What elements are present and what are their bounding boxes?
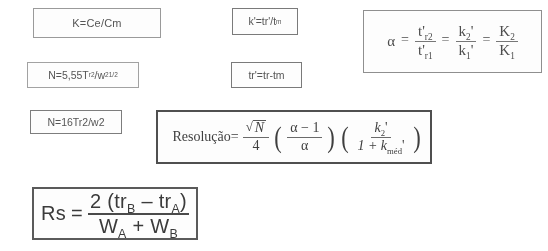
alpha-minus-one: α − 1	[287, 121, 322, 138]
alpha-fraction-distribution: K2 K1	[496, 24, 518, 59]
resolution-k2-prime: '	[385, 120, 388, 135]
open-paren-1: (	[274, 125, 282, 149]
alpha-frac3-den-base: K	[499, 42, 510, 58]
rs-den-wa-sub: A	[118, 227, 127, 241]
rs-num-sub-a: A	[172, 202, 181, 216]
resolution-k2-numerator: k2'	[371, 121, 390, 138]
resolution-formula-box: Resolução= √N 4 ( α − 1 α ) ( k2' 1 + km…	[156, 110, 432, 164]
capacity-factor-text: k'=tr'/tm	[248, 15, 281, 27]
open-paren-2: (	[342, 125, 350, 149]
resolution-sqrt-n-over-four: √N 4	[243, 120, 269, 153]
resolution-sqrt-term: √N	[243, 120, 269, 138]
resolution-selectivity-term: α − 1 α	[287, 121, 322, 153]
alpha-frac1-num-base: t'	[418, 23, 425, 39]
alpha-frac1-numerator: t'r2	[415, 24, 436, 42]
close-paren-1: )	[328, 125, 336, 149]
capacity-factor-lead: k'=tr'/t	[248, 15, 276, 27]
alpha-frac3-numerator: K2	[496, 24, 518, 42]
partition-coefficient-text: K=Ce/Cm	[72, 17, 121, 30]
rs-equals: =	[71, 202, 83, 225]
rs-num-close: )	[180, 190, 187, 212]
alpha-equals-3: =	[482, 32, 490, 50]
alpha-frac2-numerator: k2'	[456, 24, 477, 42]
rs-den-wb-sub: B	[170, 227, 179, 241]
alpha-equals-2: =	[442, 32, 450, 50]
alpha-frac2-den-base: k	[459, 42, 467, 58]
alpha-frac3-num-base: K	[499, 23, 510, 39]
adjusted-retention-time-text: tr'=tr-tm	[248, 69, 284, 81]
rs-num-minus: – tr	[136, 190, 172, 212]
radical-icon: √	[246, 120, 253, 134]
rs-fraction: 2 (trB – trA) WA + WB	[88, 191, 189, 237]
resolution-radicand: N	[253, 120, 266, 136]
alpha-frac1-num-sub: r2	[425, 32, 433, 42]
selectivity-factor-expression: α = t'r2 t'r1 = k2' k1' = K2 K1	[387, 24, 518, 59]
plate-number-lead: N=5,55T	[48, 69, 89, 81]
alpha-frac2-num-prime: '	[471, 23, 474, 39]
plate-number-slash: /w	[95, 69, 106, 81]
close-paren-2: )	[413, 125, 421, 149]
rs-label: Rs	[41, 202, 66, 225]
plate-number-half-width-box: N=5,55Tr2/w21/2	[27, 62, 139, 88]
resolution-kmed-denominator: 1 + kméd'	[354, 138, 407, 154]
rs-denominator: WA + WB	[96, 215, 181, 237]
resolution-kmed-prime: '	[402, 138, 405, 153]
resolution-label: Resolução=	[172, 129, 238, 145]
alpha-frac3-denominator: K1	[496, 42, 518, 59]
plate-number-base-width-box: N=16Tr2/w2	[30, 110, 122, 134]
rs-num-sub-b: B	[127, 202, 136, 216]
alpha-frac2-num-base: k	[459, 23, 467, 39]
alpha-equals-1: =	[401, 32, 409, 50]
alpha-symbol: α	[387, 33, 395, 50]
resolution-four: 4	[249, 138, 262, 154]
rs-den-wa: W	[99, 215, 118, 237]
rs-numerator: 2 (trB – trA)	[88, 191, 189, 215]
resolution-capacity-term: k2' 1 + kméd'	[354, 121, 407, 153]
resolution-expression: Resolução= √N 4 ( α − 1 α ) ( k2' 1 + km…	[158, 120, 430, 153]
alpha-frac3-num-sub: 2	[510, 32, 515, 42]
alpha-frac2-den-prime: '	[471, 42, 474, 58]
resolution-kmed-sub: méd	[387, 145, 402, 155]
adjusted-retention-time-box: tr'=tr-tm	[231, 62, 302, 88]
rs-den-plus: + W	[127, 215, 170, 237]
alpha-fraction-capacity: k2' k1'	[456, 24, 477, 59]
alpha-frac1-den-sub: r1	[425, 51, 433, 61]
capacity-factor-box: k'=tr'/tm	[232, 8, 298, 35]
alpha-frac2-denominator: k1'	[456, 42, 477, 59]
resolution-peaks-box: Rs = 2 (trB – trA) WA + WB	[32, 187, 198, 240]
rs-num-lead: 2 (tr	[90, 190, 127, 212]
alpha-denominator: α	[298, 138, 311, 154]
partition-coefficient-box: K=Ce/Cm	[33, 8, 161, 38]
plate-number-half-width-text: N=5,55Tr2/w21/2	[48, 69, 118, 81]
alpha-frac1-denominator: t'r1	[415, 42, 436, 59]
plate-number-base-width-text: N=16Tr2/w2	[47, 116, 104, 128]
formula-sheet-page: K=Ce/Cm N=5,55Tr2/w21/2 N=16Tr2/w2 k'=tr…	[0, 0, 548, 251]
alpha-frac1-den-base: t'	[418, 42, 425, 58]
alpha-fraction-retention: t'r2 t'r1	[415, 24, 436, 59]
resolution-peaks-expression: Rs = 2 (trB – trA) WA + WB	[41, 191, 189, 237]
alpha-frac3-den-sub: 1	[510, 51, 515, 61]
resolution-one-plus-k: 1 + k	[357, 138, 387, 153]
selectivity-factor-box: α = t'r2 t'r1 = k2' k1' = K2 K1	[363, 10, 542, 73]
